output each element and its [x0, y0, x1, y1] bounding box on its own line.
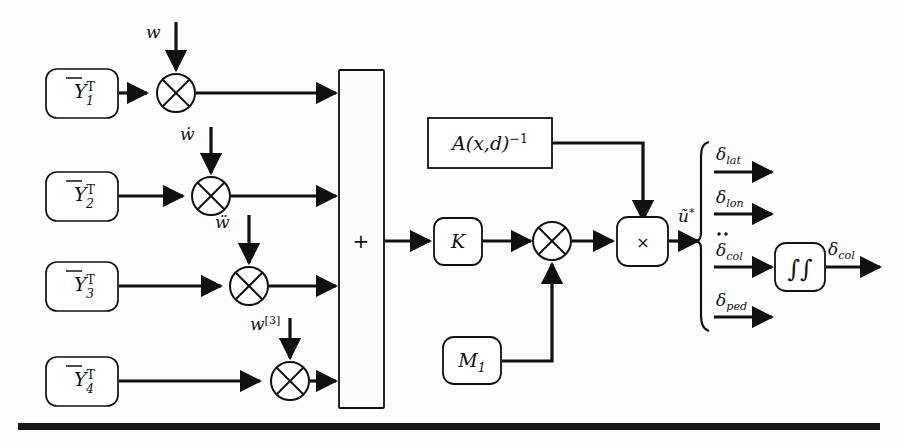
- product-block: ×: [617, 217, 668, 266]
- integrator-block-label: ∫∫: [787, 255, 812, 283]
- gain-block: K: [434, 218, 482, 265]
- input-block-y4: YT4: [46, 357, 118, 406]
- wire-inverse-to-product: [552, 143, 643, 220]
- diagram-canvas: YT1 w YT2 ẇ: [0, 0, 898, 444]
- output-label-delta-col-ddot: δcol: [716, 232, 743, 263]
- ddot-dot-right: [724, 232, 727, 235]
- summation-block-label: +: [353, 229, 370, 253]
- output-label-delta-lon: δlon: [716, 187, 744, 210]
- ddot-dot-left: [717, 232, 720, 235]
- input-block-y1: YT1: [46, 69, 118, 118]
- bottom-rule: [18, 423, 880, 430]
- integrator-block: ∫∫: [775, 243, 825, 291]
- mult-4: [271, 362, 309, 400]
- disturbance-label-wddot: ẅ: [215, 212, 230, 232]
- input-block-y3: YT3: [46, 262, 118, 311]
- output-label-delta-col-ddot-text: δcol: [716, 240, 743, 263]
- final-output-label: δcol: [828, 239, 855, 262]
- mult-2: [192, 177, 230, 215]
- gain-block-label: K: [450, 230, 467, 252]
- inverse-block: A(x,d)−1: [428, 118, 552, 168]
- mult-3: [230, 267, 268, 305]
- mult-k: [533, 222, 571, 260]
- mass-block: M1: [443, 337, 501, 384]
- input-block-y2: YT2: [46, 172, 118, 221]
- disturbance-label-w: w: [146, 22, 161, 42]
- disturbance-label-wdot: ẇ: [180, 124, 195, 144]
- summation-block: +: [339, 70, 384, 408]
- product-block-label: ×: [636, 233, 649, 252]
- virtual-control-label: ũ*: [678, 206, 695, 226]
- disturbance-label-w3: w[3]: [250, 314, 280, 334]
- wire-mass-to-multk: [502, 264, 552, 361]
- block-diagram-figure: YT1 w YT2 ẇ: [0, 0, 898, 444]
- mult-1: [157, 74, 195, 112]
- output-label-delta-ped: δped: [716, 290, 747, 313]
- output-label-delta-lat: δlat: [716, 144, 742, 167]
- output-split-brace: [696, 142, 709, 331]
